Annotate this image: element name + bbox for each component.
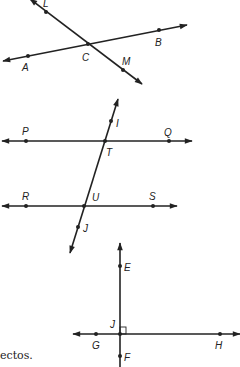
label-J-transversal: J <box>82 223 89 234</box>
point-G <box>94 332 98 336</box>
label-E: E <box>124 262 131 273</box>
label-G: G <box>92 340 100 351</box>
point-L <box>44 10 48 14</box>
point-M <box>121 68 125 72</box>
label-F: F <box>124 352 131 363</box>
label-U: U <box>92 192 100 203</box>
label-C: C <box>82 52 90 63</box>
point-P <box>24 139 28 143</box>
label-S: S <box>149 191 156 202</box>
figure-perpendicular-lines: E J G H F <box>73 243 240 367</box>
point-T <box>103 139 107 143</box>
label-H: H <box>215 340 223 351</box>
point-E <box>118 264 122 268</box>
label-L: L <box>43 0 49 9</box>
point-A <box>26 54 30 58</box>
point-H <box>218 332 222 336</box>
label-T: T <box>106 147 113 158</box>
label-J-perpendicular: J <box>109 319 116 330</box>
point-F <box>118 354 122 358</box>
label-I: I <box>116 118 119 129</box>
point-I <box>109 119 113 123</box>
label-P: P <box>22 126 29 137</box>
label-A: A <box>21 62 29 73</box>
point-S <box>151 204 155 208</box>
label-B: B <box>155 37 162 48</box>
point-C <box>86 42 90 46</box>
figure-parallel-lines: P I Q T R U S J <box>2 99 192 253</box>
point-Q <box>167 139 171 143</box>
label-M: M <box>122 56 131 67</box>
point-J-transversal <box>76 225 80 229</box>
point-U <box>82 204 86 208</box>
label-R: R <box>22 191 29 202</box>
figure-intersecting-lines: L A C B M <box>3 0 187 84</box>
point-J-perpendicular <box>118 332 122 336</box>
label-Q: Q <box>164 127 172 138</box>
point-B <box>157 28 161 32</box>
geometry-diagram: L A C B M P I Q T R U S J E J <box>0 0 240 367</box>
caption-text: ectos. <box>0 349 33 362</box>
point-R <box>24 204 28 208</box>
